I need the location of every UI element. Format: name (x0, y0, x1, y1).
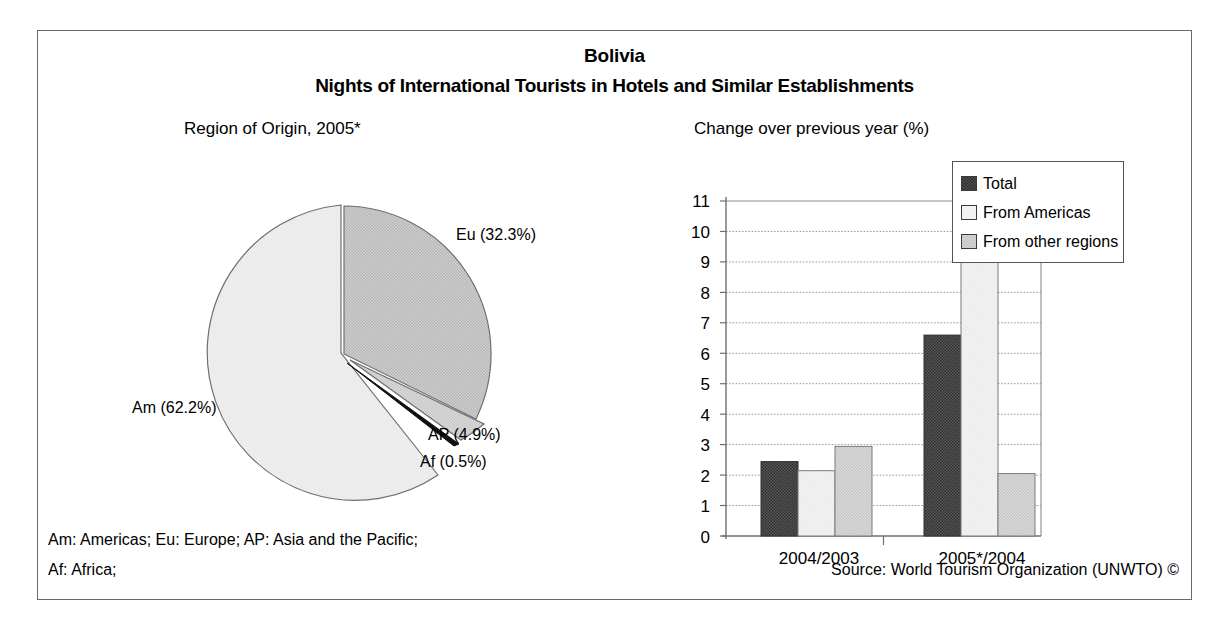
legend-item-from-americas[interactable]: From Americas (961, 198, 1123, 227)
pie-chart-panel: Eu (32.3%) Am (62.2%) AP (4.9%) Af (0.5%… (38, 141, 608, 521)
legend-label-from-americas: From Americas (983, 204, 1091, 222)
footnote-abbreviations-line-1: Am: Americas; Eu: Europe; AP: Asia and t… (48, 531, 418, 549)
y-tick-7: 7 (684, 315, 710, 332)
legend-swatch-other-icon (961, 234, 977, 249)
pie-label-eu: Eu (32.3%) (456, 226, 536, 244)
y-tick-9: 9 (684, 254, 710, 271)
legend-label-from-other-regions: From other regions (983, 233, 1118, 251)
pie-label-af: Af (0.5%) (420, 453, 487, 471)
bar-2004-other[interactable] (835, 446, 872, 536)
y-tick-marks (720, 201, 726, 536)
figure-subtitle: Nights of International Tourists in Hote… (38, 75, 1191, 97)
pie-label-am: Am (62.2%) (132, 399, 216, 417)
footnote-abbreviations-line-2: Af: Africa; (48, 561, 116, 579)
y-tick-1: 1 (684, 498, 710, 515)
legend-swatch-total-icon (961, 176, 977, 191)
bar-chart-panel: 11 10 9 8 7 6 5 4 3 2 1 0 2004/2003 2005… (634, 141, 1194, 561)
bar-2004-americas[interactable] (798, 471, 835, 536)
figure-title: Bolivia (38, 45, 1191, 67)
y-tick-8: 8 (684, 285, 710, 302)
bar-2005-other[interactable] (998, 474, 1035, 536)
y-tick-11: 11 (684, 193, 710, 210)
y-tick-0: 0 (684, 529, 710, 546)
legend-label-total: Total (983, 175, 1017, 193)
bar-2005-total[interactable] (924, 335, 961, 536)
y-tick-2: 2 (684, 468, 710, 485)
pie-chart-svg (38, 141, 608, 521)
bar-2005-americas[interactable] (961, 244, 998, 536)
legend-swatch-americas-icon (961, 205, 977, 220)
y-tick-6: 6 (684, 346, 710, 363)
pie-label-ap: AP (4.9%) (428, 426, 501, 444)
legend-item-from-other-regions[interactable]: From other regions (961, 227, 1123, 256)
chart-legend: Total From Americas From other regions (952, 161, 1124, 263)
bar-panel-title: Change over previous year (%) (694, 119, 929, 139)
bar-2004-total[interactable] (761, 462, 798, 536)
pie-panel-title: Region of Origin, 2005* (184, 119, 361, 139)
y-tick-4: 4 (684, 407, 710, 424)
chart-figure: Bolivia Nights of International Tourists… (37, 30, 1192, 600)
y-tick-10: 10 (684, 224, 710, 241)
y-tick-5: 5 (684, 376, 710, 393)
source-attribution: Source: World Tourism Organization (UNWT… (831, 561, 1179, 579)
y-tick-3: 3 (684, 437, 710, 454)
legend-item-total[interactable]: Total (961, 169, 1123, 198)
